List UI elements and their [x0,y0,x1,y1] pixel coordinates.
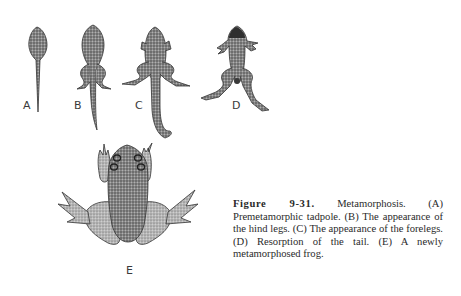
figure-number: Figure 9-31. [233,198,315,209]
stage-label-e: E [126,265,133,277]
metamorphosis-figure: A B C D E Figure 9-31. Metamorphosis. (A… [0,0,461,296]
tadpole-stage-a-drawing [29,27,47,112]
tadpole-stage-b-drawing [77,25,111,130]
figure-caption: Figure 9-31. Metamorphosis. (A) Premetam… [233,198,443,261]
stage-label-d: D [232,100,240,112]
stage-label-a: A [23,100,31,112]
froglet-stage-c-drawing [122,27,190,138]
frog-stage-e-drawing [58,143,198,244]
stage-label-c: C [135,100,143,112]
stage-label-b: B [74,100,82,112]
